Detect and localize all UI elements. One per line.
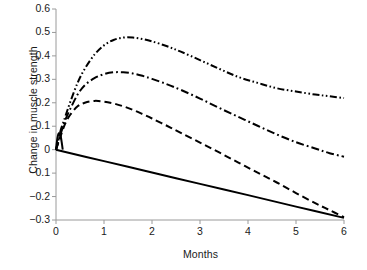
y-tick-marks <box>52 9 56 220</box>
x-tick-label: 2 <box>140 226 164 237</box>
data-series-group <box>56 37 344 218</box>
axis-lines <box>56 9 344 220</box>
series-curve-dash-dot-dot <box>56 37 344 149</box>
series-curve-solid <box>56 150 344 218</box>
x-tick-label: 4 <box>236 226 260 237</box>
x-tick-label: 3 <box>188 226 212 237</box>
x-tick-marks <box>56 220 344 224</box>
x-tick-label: 0 <box>44 226 68 237</box>
x-tick-label: 1 <box>92 226 116 237</box>
chart-container: Change in muscle strength 0.60.50.40.30.… <box>0 0 367 270</box>
x-tick-label: 5 <box>284 226 308 237</box>
series-curve-dash-dot <box>56 72 344 157</box>
x-tick-label: 6 <box>332 226 356 237</box>
